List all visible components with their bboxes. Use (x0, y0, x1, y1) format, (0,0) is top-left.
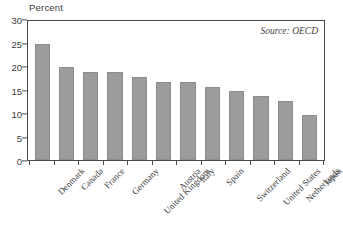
bar-slot (225, 21, 249, 160)
x-axis-tick-mark (225, 161, 226, 165)
bar[interactable] (229, 91, 244, 160)
bar[interactable] (132, 77, 147, 160)
y-axis-tick-label: 5 (0, 132, 22, 143)
bar-slot (249, 21, 273, 160)
bar[interactable] (107, 72, 122, 160)
x-axis-tick-label: Japan (322, 166, 343, 188)
x-axis-tick-mark (176, 161, 177, 165)
x-axis-tick-mark (201, 161, 202, 165)
y-axis-tick-label: 25 (0, 38, 22, 49)
plot-area: Source: OECD (27, 20, 325, 161)
bar-slot (79, 21, 103, 160)
y-axis-tick-label: 30 (0, 15, 22, 26)
y-axis-tick-label: 20 (0, 62, 22, 73)
x-axis-tick-label: France (102, 166, 126, 190)
x-axis-tick-label: Germany (130, 166, 161, 197)
bar-slot (152, 21, 176, 160)
bar[interactable] (302, 115, 317, 160)
x-axis-tick-mark (274, 161, 275, 165)
bar[interactable] (278, 101, 293, 160)
y-axis-tick-label: 0 (0, 156, 22, 167)
bar-slot (200, 21, 224, 160)
bar-slot (127, 21, 151, 160)
bar-slot (103, 21, 127, 160)
x-axis-tick-mark (103, 161, 104, 165)
y-axis-tick-label: 15 (0, 85, 22, 96)
bar-slot (176, 21, 200, 160)
bar[interactable] (156, 82, 171, 160)
y-axis-tick-label: 10 (0, 109, 22, 120)
x-axis-tick-mark (54, 161, 55, 165)
bar-slot (54, 21, 78, 160)
x-axis-tick-mark (78, 161, 79, 165)
bar-slot (30, 21, 54, 160)
bar[interactable] (83, 72, 98, 160)
x-axis-tick-mark (299, 161, 300, 165)
y-axis-title: Percent (29, 2, 63, 13)
bar[interactable] (180, 82, 195, 160)
bar-slot (273, 21, 297, 160)
x-axis-tick-mark (250, 161, 251, 165)
bar[interactable] (253, 96, 268, 160)
x-axis-tick-mark (29, 161, 30, 165)
x-axis-tick-mark (323, 161, 324, 165)
x-axis-tick-mark (127, 161, 128, 165)
x-axis-tick-label: Spain (224, 166, 246, 188)
bar[interactable] (35, 44, 50, 160)
x-axis-tick-mark (152, 161, 153, 165)
bar[interactable] (205, 87, 220, 160)
bar[interactable] (59, 67, 74, 160)
bar-slot (298, 21, 322, 160)
bars-container (30, 21, 322, 160)
